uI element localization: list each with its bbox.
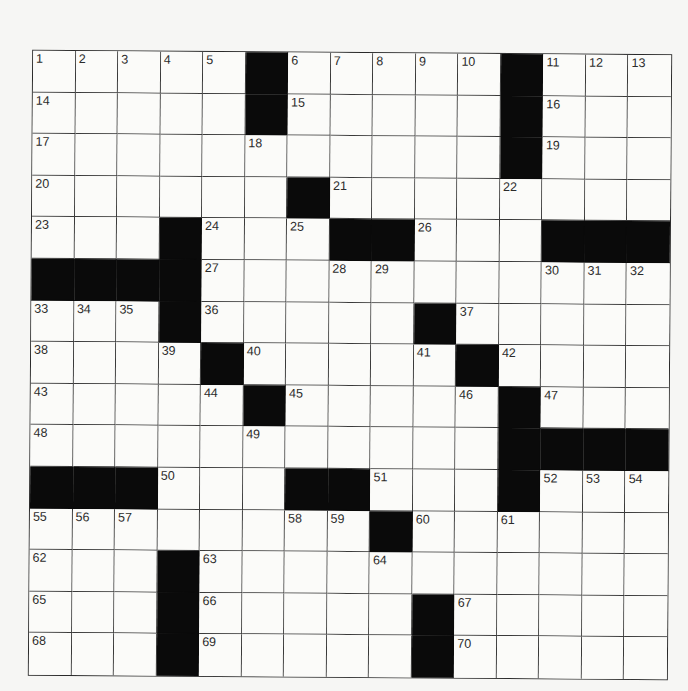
answer-cell[interactable]: 49: [243, 427, 286, 469]
answer-cell[interactable]: 11: [543, 54, 586, 96]
answer-cell[interactable]: [582, 637, 625, 679]
answer-cell[interactable]: 70: [454, 636, 497, 678]
answer-cell[interactable]: 20: [32, 176, 75, 218]
answer-cell[interactable]: [371, 386, 414, 428]
answer-cell[interactable]: [114, 551, 157, 593]
answer-cell[interactable]: [245, 177, 288, 219]
answer-cell[interactable]: 27: [202, 260, 245, 302]
answer-cell[interactable]: 3: [118, 51, 161, 93]
answer-cell[interactable]: [624, 637, 667, 679]
answer-cell[interactable]: [413, 428, 456, 470]
answer-cell[interactable]: [541, 346, 584, 388]
answer-cell[interactable]: [287, 261, 330, 303]
answer-cell[interactable]: [160, 93, 203, 135]
answer-cell[interactable]: [455, 511, 498, 553]
answer-cell[interactable]: 33: [31, 300, 74, 342]
answer-cell[interactable]: [497, 595, 540, 637]
answer-cell[interactable]: [73, 384, 116, 426]
answer-cell[interactable]: [627, 180, 670, 222]
answer-cell[interactable]: [160, 176, 203, 218]
answer-cell[interactable]: [457, 220, 500, 262]
answer-cell[interactable]: [244, 260, 287, 302]
answer-cell[interactable]: [583, 387, 626, 429]
answer-cell[interactable]: [117, 135, 160, 177]
answer-cell[interactable]: [158, 384, 201, 426]
answer-cell[interactable]: [117, 218, 160, 260]
answer-cell[interactable]: 44: [201, 385, 244, 427]
answer-cell[interactable]: [585, 138, 628, 180]
answer-cell[interactable]: [539, 595, 582, 637]
answer-cell[interactable]: [540, 554, 583, 596]
answer-cell[interactable]: [73, 425, 116, 467]
answer-cell[interactable]: 26: [415, 220, 458, 262]
answer-cell[interactable]: [284, 593, 327, 635]
answer-cell[interactable]: [200, 426, 243, 468]
answer-cell[interactable]: [413, 469, 456, 511]
answer-cell[interactable]: 68: [29, 633, 72, 675]
answer-cell[interactable]: [371, 303, 414, 345]
answer-cell[interactable]: 53: [583, 471, 626, 513]
answer-cell[interactable]: 69: [199, 634, 242, 676]
answer-cell[interactable]: [542, 179, 585, 221]
answer-cell[interactable]: [542, 304, 585, 346]
answer-cell[interactable]: 57: [115, 509, 158, 551]
answer-cell[interactable]: [117, 176, 160, 218]
answer-cell[interactable]: [456, 428, 499, 470]
answer-cell[interactable]: [499, 262, 542, 304]
answer-cell[interactable]: [118, 93, 161, 135]
answer-cell[interactable]: [287, 136, 330, 178]
answer-cell[interactable]: 62: [29, 550, 72, 592]
answer-cell[interactable]: [243, 468, 286, 510]
answer-cell[interactable]: [373, 136, 416, 178]
answer-cell[interactable]: [582, 595, 625, 637]
answer-cell[interactable]: 17: [32, 134, 75, 176]
answer-cell[interactable]: [371, 428, 414, 470]
answer-cell[interactable]: [586, 96, 629, 138]
answer-cell[interactable]: 66: [199, 593, 242, 635]
answer-cell[interactable]: [584, 304, 627, 346]
answer-cell[interactable]: 28: [329, 261, 372, 303]
answer-cell[interactable]: 63: [200, 551, 243, 593]
answer-cell[interactable]: 14: [33, 92, 76, 134]
answer-cell[interactable]: 51: [370, 469, 413, 511]
answer-cell[interactable]: 59: [327, 510, 370, 552]
answer-cell[interactable]: [157, 509, 200, 551]
answer-cell[interactable]: [286, 344, 329, 386]
answer-cell[interactable]: [328, 386, 371, 428]
answer-cell[interactable]: [330, 94, 373, 136]
answer-cell[interactable]: 23: [32, 217, 75, 259]
answer-cell[interactable]: 64: [370, 552, 413, 594]
answer-cell[interactable]: [286, 302, 329, 344]
answer-cell[interactable]: [71, 633, 114, 675]
answer-cell[interactable]: [329, 302, 372, 344]
answer-cell[interactable]: 2: [75, 51, 118, 93]
answer-cell[interactable]: [114, 634, 157, 676]
answer-cell[interactable]: [242, 510, 285, 552]
answer-cell[interactable]: 47: [541, 387, 584, 429]
answer-cell[interactable]: [327, 552, 370, 594]
answer-cell[interactable]: [413, 386, 456, 428]
answer-cell[interactable]: 48: [30, 425, 73, 467]
answer-cell[interactable]: [330, 136, 373, 178]
answer-cell[interactable]: 50: [158, 468, 201, 510]
answer-cell[interactable]: [625, 554, 668, 596]
answer-cell[interactable]: [373, 95, 416, 137]
answer-cell[interactable]: 9: [416, 53, 459, 95]
answer-cell[interactable]: [458, 95, 501, 137]
answer-cell[interactable]: 29: [372, 261, 415, 303]
answer-cell[interactable]: 37: [456, 303, 499, 345]
answer-cell[interactable]: [284, 635, 327, 677]
answer-cell[interactable]: 12: [586, 55, 629, 97]
answer-cell[interactable]: [582, 554, 625, 596]
answer-cell[interactable]: [200, 510, 243, 552]
answer-cell[interactable]: [627, 305, 670, 347]
answer-cell[interactable]: 24: [202, 218, 245, 260]
answer-cell[interactable]: [628, 138, 671, 180]
answer-cell[interactable]: 42: [499, 345, 542, 387]
answer-cell[interactable]: 7: [331, 53, 374, 95]
answer-cell[interactable]: 52: [540, 470, 583, 512]
answer-cell[interactable]: 19: [543, 138, 586, 180]
answer-cell[interactable]: [158, 426, 201, 468]
answer-cell[interactable]: [202, 135, 245, 177]
answer-cell[interactable]: 15: [288, 94, 331, 136]
